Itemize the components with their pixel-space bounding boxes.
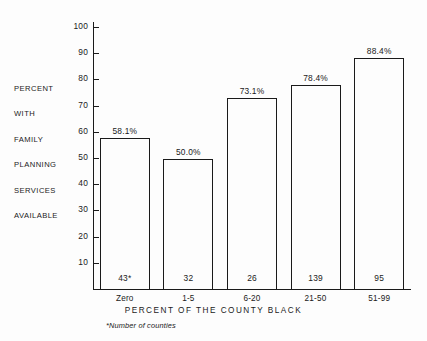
y-axis-tick: 40	[94, 184, 99, 185]
bar: 73.1%266-20	[227, 98, 277, 290]
bar-value-label: 50.0%	[176, 147, 201, 157]
y-axis-tick: 70	[94, 106, 99, 107]
bar-value-label: 88.4%	[367, 46, 392, 56]
y-axis-tick: 50	[94, 158, 99, 159]
y-axis-tick: 30	[94, 210, 99, 211]
bar-value-label: 73.1%	[240, 86, 265, 96]
y-axis-top-corner	[94, 27, 99, 28]
bar: 50.0%321-5	[163, 159, 213, 290]
bar: 78.4%13921-50	[291, 85, 341, 290]
y-axis-tick: 10	[94, 263, 99, 264]
bar-count-label: 95	[374, 273, 384, 283]
footnote: *Number of counties	[106, 321, 176, 330]
bar-count-label: 26	[247, 273, 257, 283]
chart-figure: PERCENT WITH FAMILY PLANNING SERVICES AV…	[0, 0, 427, 341]
x-axis-category-label: 21-50	[305, 294, 327, 303]
y-axis-tick: 20	[94, 237, 99, 238]
y-axis-tick: 80	[94, 79, 99, 80]
y-axis-tick-label: 90	[78, 47, 88, 57]
x-axis-category-label: 6-20	[243, 294, 260, 303]
bar-count-label: 32	[184, 273, 194, 283]
plot-area: 100908070605040302010 58.1%43*Zero50.0%3…	[93, 22, 411, 290]
x-axis-category-label: 51-99	[368, 294, 390, 303]
bar-value-label: 58.1%	[112, 126, 137, 136]
y-axis-tick-label: 80	[78, 73, 88, 83]
x-axis-category-label: 1-5	[182, 294, 194, 303]
y-axis-tick-label: 60	[78, 126, 88, 136]
y-axis-tick-label: 100	[73, 21, 88, 31]
y-axis-tick-label: 10	[78, 257, 88, 267]
x-axis-category-label: Zero	[116, 294, 134, 303]
bar-value-label: 78.4%	[303, 73, 328, 83]
y-axis-line	[93, 22, 94, 290]
bar-count-label: 43*	[118, 273, 131, 283]
bar: 58.1%43*Zero	[100, 138, 150, 290]
y-axis-tick: 90	[94, 53, 99, 54]
y-axis-tick-label: 70	[78, 100, 88, 110]
y-axis-tick-label: 30	[78, 204, 88, 214]
y-axis-tick-label: 40	[78, 178, 88, 188]
y-axis-tick-label: 20	[78, 231, 88, 241]
y-axis-tick: 60	[94, 132, 99, 133]
y-axis-tick-label: 50	[78, 152, 88, 162]
bar-count-label: 139	[308, 273, 323, 283]
x-axis-title: PERCENT OF THE COUNTY BLACK	[0, 306, 427, 315]
bar: 88.4%9551-99	[354, 58, 404, 290]
